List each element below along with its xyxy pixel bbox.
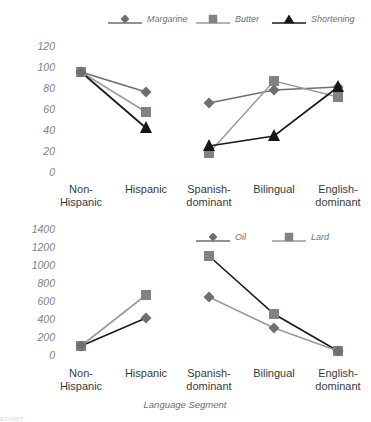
marker-oil-spanish-dominant <box>204 292 215 303</box>
svg-text:Non-: Non- <box>69 183 93 195</box>
svg-text:Non-: Non- <box>69 367 93 379</box>
square-icon <box>285 233 294 242</box>
x-category-hispanic: Hispanic <box>125 367 168 379</box>
x-category-hispanic: Hispanic <box>125 183 168 195</box>
svg-text:Bilingual: Bilingual <box>253 367 295 379</box>
y-tick-1000: 1000 <box>32 259 56 271</box>
x-category-english-dominant: English- dominant <box>315 183 360 208</box>
legend-line-shortening <box>272 18 306 20</box>
legend-label-lard: Lard <box>311 232 329 242</box>
y-tick-400: 400 <box>37 313 55 325</box>
legend-label-shortening: Shortening <box>311 14 355 24</box>
square-icon <box>209 15 218 24</box>
svg-text:Bilingual: Bilingual <box>253 183 295 195</box>
footer-strip: EXHIBIT <box>0 416 371 422</box>
x-category-non-hispanic: Non- Hispanic <box>60 367 103 392</box>
y-tick-120: 120 <box>37 40 55 52</box>
legend-line-oil <box>196 236 230 238</box>
svg-text:Hispanic: Hispanic <box>60 380 103 392</box>
y-tick-20: 20 <box>42 145 55 157</box>
line-butter-left <box>81 72 146 112</box>
marker-shortening-hispanic <box>140 121 152 133</box>
marker-lard-hispanic <box>141 290 151 300</box>
y-tick-60: 60 <box>43 103 55 115</box>
triangle-icon <box>284 15 295 24</box>
y-tick-80: 80 <box>43 82 55 94</box>
y-tick-100: 100 <box>37 61 55 73</box>
line-margarine-left <box>81 72 146 92</box>
svg-text:Hispanic: Hispanic <box>125 367 168 379</box>
y-tick-200: 200 <box>36 331 55 343</box>
marker-lard-bilingual <box>269 309 279 319</box>
line-oil-left <box>81 318 146 346</box>
y-tick-600: 600 <box>37 295 55 307</box>
y-tick-800: 800 <box>37 277 55 289</box>
legend-label-margarine: Margarine <box>147 14 188 24</box>
x-category-bilingual: Bilingual <box>253 367 295 379</box>
y-tick-0: 0 <box>49 349 55 361</box>
y-tick-1200: 1200 <box>32 241 56 253</box>
marker-oil-hispanic <box>141 313 152 324</box>
line-lard-left <box>81 295 146 346</box>
x-category-english-dominant: English- dominant <box>315 367 360 392</box>
svg-text:Spanish-: Spanish- <box>187 367 231 379</box>
legend-line-margarine <box>108 18 142 20</box>
top-series-lines-left <box>81 72 146 128</box>
bottom-markers-lard <box>76 251 343 356</box>
svg-text:Hispanic: Hispanic <box>60 196 103 208</box>
svg-text:dominant: dominant <box>186 196 231 208</box>
svg-text:English-: English- <box>318 367 358 379</box>
bottom-series-lines-right <box>209 256 338 351</box>
y-tick-0: 0 <box>49 166 55 178</box>
marker-butter-hispanic <box>141 107 151 117</box>
marker-oil-bilingual <box>269 323 280 334</box>
legend-line-lard <box>272 236 306 238</box>
marker-shortening-bilingual <box>268 129 280 141</box>
top-chart-plot: 120 100 80 60 40 20 0 Non- Hispanic Hisp… <box>0 0 371 211</box>
legend-item-margarine: Margarine <box>108 14 188 24</box>
bottom-chart-plot: 1400 1200 1000 800 600 400 200 0 Non- Hi… <box>0 211 371 422</box>
x-category-spanish-dominant: Spanish- dominant <box>186 183 231 208</box>
x-axis-title: Language Segment <box>144 399 227 410</box>
line-lard-right <box>209 256 338 351</box>
marker-butter-english-dominant <box>333 92 343 102</box>
x-category-bilingual: Bilingual <box>253 183 295 195</box>
diamond-icon <box>121 15 130 24</box>
x-category-spanish-dominant: Spanish- dominant <box>186 367 231 392</box>
legend-item-oil: Oil <box>196 232 246 242</box>
svg-text:Hispanic: Hispanic <box>125 183 168 195</box>
marker-margarine-spanish-dominant <box>204 98 215 109</box>
bottom-series-lines-left <box>81 295 146 346</box>
svg-text:dominant: dominant <box>315 380 360 392</box>
x-category-non-hispanic: Non- Hispanic <box>60 183 103 208</box>
legend-item-lard: Lard <box>272 232 329 242</box>
legend-item-butter: Butter <box>196 14 259 24</box>
oil-lard-chart: Oil Lard 1400 1200 1000 800 600 400 200 … <box>0 211 371 422</box>
legend-line-butter <box>196 18 230 20</box>
bottom-markers-oil <box>76 292 344 357</box>
marker-lard-spanish-dominant <box>204 251 214 261</box>
legend-item-shortening: Shortening <box>272 14 355 24</box>
footer-caption: EXHIBIT <box>0 416 371 422</box>
svg-text:Spanish-: Spanish- <box>187 183 231 195</box>
legend-label-oil: Oil <box>235 232 246 242</box>
diamond-icon <box>209 233 218 242</box>
marker-margarine-hispanic <box>141 87 152 98</box>
y-tick-40: 40 <box>43 124 55 136</box>
y-tick-1400: 1400 <box>32 223 56 235</box>
legend-label-butter: Butter <box>235 14 259 24</box>
margarine-butter-shortening-chart: Margarine Butter Shortening 120 100 80 <box>0 0 371 211</box>
svg-text:dominant: dominant <box>315 196 360 208</box>
svg-text:dominant: dominant <box>186 380 231 392</box>
line-shortening-left <box>81 72 146 128</box>
svg-text:English-: English- <box>318 183 358 195</box>
